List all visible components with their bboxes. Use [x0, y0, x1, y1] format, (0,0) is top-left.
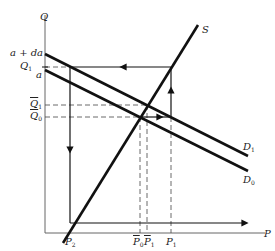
d1-text: D	[243, 141, 251, 152]
d0-sub: 0	[251, 179, 255, 186]
y-tick-a-plus-da-text: a + da	[10, 47, 43, 58]
y-tick-a-text: a	[36, 69, 42, 80]
demand-d1-label: D1	[243, 142, 255, 153]
y-tick-q1-text: Q	[20, 60, 28, 71]
x-tick-p0-bar-sub: 0	[140, 241, 144, 248]
x-tick-p2-sub: 2	[72, 241, 76, 248]
x-tick-p1-bar-sub: 1	[151, 241, 155, 248]
x-tick-p1-text: P	[166, 236, 173, 247]
x-axis-label: P	[264, 229, 271, 239]
demand-d0-label: D0	[243, 175, 255, 186]
supply-demand-diagram	[0, 0, 275, 251]
x-tick-p0-bar-text: P	[133, 236, 140, 247]
y-tick-q0-bar-text: Q	[30, 110, 38, 121]
demand-curve-d0	[45, 70, 248, 171]
x-tick-p1: P1	[166, 237, 177, 248]
d0-text: D	[243, 174, 251, 185]
y-tick-q0-bar: Q0	[30, 111, 42, 122]
supply-curve	[63, 25, 198, 243]
demand-curve-d1	[45, 54, 248, 156]
y-tick-a: a	[36, 70, 42, 80]
y-tick-q1-bar: Q1	[30, 99, 42, 110]
y-axis-label-text: Q	[40, 11, 48, 22]
x-tick-p2-text: P	[65, 236, 72, 247]
x-tick-p1-bar: P1	[144, 237, 155, 248]
x-tick-p2: P2	[65, 237, 76, 248]
supply-label-text: S	[202, 24, 209, 35]
y-tick-q1-sub: 1	[28, 65, 32, 72]
y-tick-q1: Q1	[20, 61, 32, 72]
y-tick-q1-bar-text: Q	[30, 98, 38, 109]
dashed-guides	[45, 67, 171, 233]
x-tick-p1-sub: 1	[173, 241, 177, 248]
d1-sub: 1	[251, 146, 255, 153]
supply-label: S	[202, 25, 209, 35]
x-axis-label-text: P	[264, 228, 271, 239]
y-tick-q1-bar-sub: 1	[38, 103, 42, 110]
y-tick-q0-bar-sub: 0	[38, 115, 42, 122]
y-tick-a-plus-da: a + da	[10, 48, 43, 58]
x-tick-p1-bar-text: P	[144, 236, 151, 247]
x-tick-p0-bar: P0	[133, 237, 144, 248]
y-axis-label: Q	[40, 12, 48, 22]
